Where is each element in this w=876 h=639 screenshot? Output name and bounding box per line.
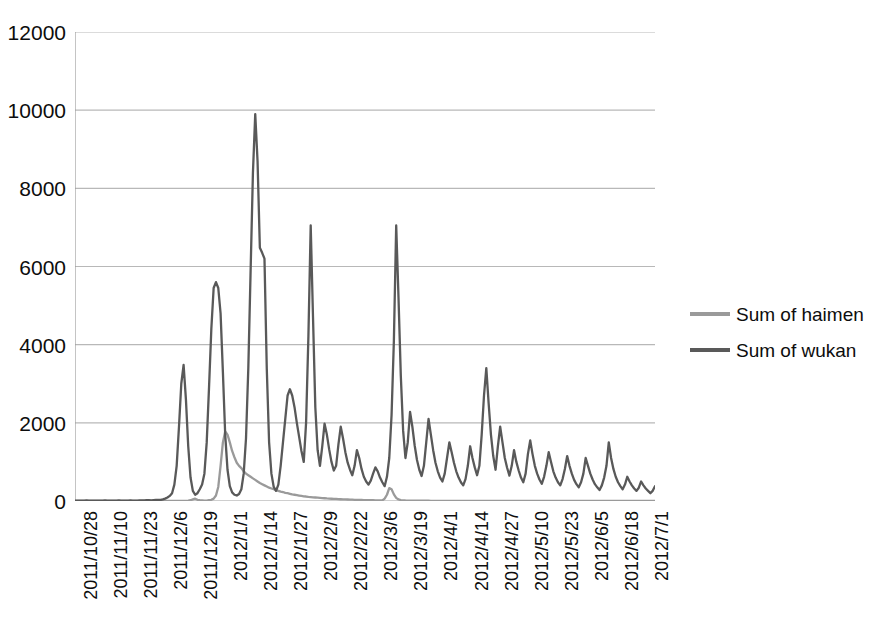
legend-entry[interactable]: Sum of wukan (690, 332, 876, 368)
y-tick-label: 0 (0, 491, 66, 512)
x-tick-label: 2012/1/14 (262, 511, 280, 591)
plot-area (75, 32, 655, 501)
plot-svg (75, 32, 655, 501)
x-tick-label: 2012/2/22 (352, 511, 370, 591)
chart-legend: Sum of haimenSum of wukan (690, 296, 876, 368)
chart-container: 020004000600080001000012000 2011/10/2820… (0, 0, 876, 639)
y-tick-label: 4000 (0, 335, 66, 356)
x-tick-label: 2012/7/1 (653, 511, 671, 581)
gridlines (75, 32, 655, 423)
series-lines (75, 114, 655, 501)
x-axis: 2011/10/282011/11/102011/11/232011/12/62… (75, 501, 655, 639)
legend-label: Sum of wukan (736, 341, 856, 360)
x-tick-label: 2012/4/14 (473, 511, 491, 591)
y-tick-label: 12000 (0, 22, 66, 43)
x-tick-label: 2012/3/6 (382, 511, 400, 581)
x-tick-label: 2012/1/27 (292, 511, 310, 591)
y-tick-label: 8000 (0, 178, 66, 199)
x-tick-label: 2011/10/28 (82, 511, 100, 600)
x-tick-label: 2012/5/23 (563, 511, 581, 591)
x-tick-label: 2012/6/5 (593, 511, 611, 581)
legend-swatch-wukan (690, 348, 730, 352)
series-line-sum-of-wukan (75, 114, 655, 501)
x-tick-label: 2012/6/18 (623, 511, 641, 591)
x-tick-label: 2012/3/19 (412, 511, 430, 591)
x-tick-label: 2012/4/1 (442, 511, 460, 581)
series-line-sum-of-haimen (75, 431, 655, 501)
y-tick-label: 6000 (0, 257, 66, 278)
x-tick-label: 2011/12/6 (172, 511, 190, 590)
y-tick-label: 10000 (0, 100, 66, 121)
x-tick-label: 2012/2/9 (322, 511, 340, 581)
x-tick-label: 2011/11/23 (142, 511, 160, 598)
legend-entry[interactable]: Sum of haimen (690, 296, 876, 332)
x-tick-label: 2011/11/10 (112, 511, 130, 598)
x-tick-label: 2012/1/1 (232, 511, 250, 581)
legend-swatch-haimen (690, 312, 730, 316)
legend-label: Sum of haimen (736, 305, 864, 324)
x-tick-label: 2012/5/10 (533, 511, 551, 591)
y-tick-label: 2000 (0, 413, 66, 434)
y-axis: 020004000600080001000012000 (0, 0, 66, 639)
x-tick-label: 2011/12/19 (202, 511, 220, 600)
x-tick-label: 2012/4/27 (503, 511, 521, 591)
